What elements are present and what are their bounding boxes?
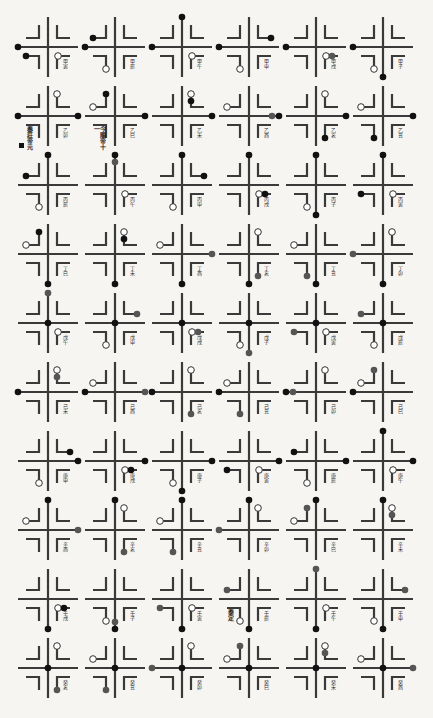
hexagram-cell: 辛卯 bbox=[216, 496, 282, 564]
bracket-nw bbox=[93, 301, 106, 314]
open-dot-icon bbox=[291, 518, 298, 525]
open-dot-icon bbox=[36, 204, 43, 211]
bracket-nw bbox=[361, 508, 374, 521]
cycle-label: 辛巳 bbox=[330, 542, 335, 552]
filled-dot-icon bbox=[82, 389, 89, 396]
filled-dot-icon bbox=[291, 449, 298, 456]
cycle-label: 癸丑 bbox=[129, 680, 134, 690]
bracket-nw bbox=[294, 577, 307, 590]
filled-dot-icon bbox=[188, 98, 195, 105]
filled-dot-icon bbox=[75, 113, 82, 120]
filled-dot-icon bbox=[112, 320, 119, 327]
gray-dot-icon bbox=[112, 159, 119, 166]
bracket-ne bbox=[124, 646, 137, 659]
gray-dot-icon bbox=[54, 687, 61, 694]
filled-dot-icon bbox=[121, 236, 128, 243]
cycle-label: 戊申 bbox=[129, 335, 134, 345]
annotation-note: 泰定 bbox=[227, 609, 233, 621]
open-dot-icon bbox=[90, 656, 97, 663]
bracket-nw bbox=[26, 577, 39, 590]
open-dot-icon bbox=[256, 467, 263, 474]
filled-dot-icon bbox=[380, 665, 387, 672]
hexagram-cell: 甲申 bbox=[216, 13, 282, 81]
gray-dot-icon bbox=[170, 549, 177, 556]
hexagram-cell: 乙丑 bbox=[350, 82, 416, 150]
bracket-ne bbox=[191, 577, 204, 590]
bracket-sw bbox=[227, 677, 240, 690]
filled-dot-icon bbox=[179, 626, 186, 633]
filled-dot-icon bbox=[380, 497, 387, 504]
hexagram-cell: 辛未 bbox=[350, 496, 416, 564]
filled-dot-icon bbox=[112, 626, 119, 633]
filled-dot-icon bbox=[313, 152, 320, 159]
cycle-label: 戊午 bbox=[62, 335, 67, 345]
cycle-label: 丙子 bbox=[330, 197, 335, 207]
cycle-label: 庚子 bbox=[196, 473, 201, 483]
hexagram-cell: 乙酉 bbox=[216, 82, 282, 150]
bracket-nw bbox=[361, 439, 374, 452]
bracket-ne bbox=[57, 25, 70, 38]
bracket-sw bbox=[26, 332, 39, 345]
bracket-ne bbox=[191, 25, 204, 38]
bracket-ne bbox=[124, 370, 137, 383]
hexagram-cell: 癸巳 bbox=[216, 634, 282, 702]
open-dot-icon bbox=[224, 104, 231, 111]
filled-dot-icon bbox=[313, 665, 320, 672]
gray-dot-icon bbox=[216, 527, 223, 534]
filled-dot-icon bbox=[45, 665, 52, 672]
open-dot-icon bbox=[322, 643, 329, 650]
bracket-sw bbox=[93, 194, 106, 207]
filled-dot-icon bbox=[15, 389, 22, 396]
hexagram-cell: 戊戌 bbox=[149, 289, 215, 357]
gray-dot-icon bbox=[149, 665, 156, 672]
hexagram-cell: 壬戌 bbox=[15, 565, 81, 633]
bracket-ne bbox=[325, 25, 338, 38]
hexagram-cell: 庚申 bbox=[15, 427, 81, 495]
cycle-label: 乙亥 bbox=[330, 128, 335, 138]
open-dot-icon bbox=[256, 191, 263, 198]
filled-dot-icon bbox=[246, 152, 253, 159]
open-dot-icon bbox=[55, 329, 62, 336]
gray-dot-icon bbox=[313, 566, 320, 573]
open-dot-icon bbox=[23, 518, 30, 525]
gray-dot-icon bbox=[410, 665, 417, 672]
bracket-nw bbox=[227, 301, 240, 314]
cycle-label: 癸未 bbox=[330, 680, 335, 690]
filled-dot-icon bbox=[112, 497, 119, 504]
cycle-label: 壬寅 bbox=[196, 611, 201, 621]
open-dot-icon bbox=[323, 329, 330, 336]
bracket-nw bbox=[160, 646, 173, 659]
bracket-nw bbox=[160, 25, 173, 38]
bracket-ne bbox=[325, 439, 338, 452]
open-dot-icon bbox=[36, 480, 43, 487]
open-dot-icon bbox=[224, 656, 231, 663]
filled-dot-icon bbox=[350, 44, 357, 51]
cycle-label: 丁丑 bbox=[330, 266, 335, 276]
open-dot-icon bbox=[390, 467, 397, 474]
filled-dot-icon bbox=[179, 488, 186, 495]
filled-dot-icon bbox=[380, 320, 387, 327]
bracket-nw bbox=[93, 439, 106, 452]
filled-dot-icon bbox=[268, 35, 275, 42]
bracket-nw bbox=[26, 94, 39, 107]
bracket-ne bbox=[258, 646, 271, 659]
open-dot-icon bbox=[90, 380, 97, 387]
bracket-sw bbox=[227, 539, 240, 552]
gray-dot-icon bbox=[304, 505, 311, 512]
bracket-nw bbox=[26, 301, 39, 314]
bracket-nw bbox=[93, 577, 106, 590]
filled-dot-icon bbox=[36, 229, 43, 236]
bracket-nw bbox=[26, 25, 39, 38]
filled-dot-icon bbox=[380, 428, 387, 435]
hexagram-cell: 己巳 bbox=[350, 358, 416, 426]
open-dot-icon bbox=[358, 104, 365, 111]
filled-dot-icon bbox=[246, 320, 253, 327]
bracket-ne bbox=[325, 232, 338, 245]
gray-dot-icon bbox=[304, 273, 311, 280]
bracket-nw bbox=[160, 163, 173, 176]
open-dot-icon bbox=[188, 643, 195, 650]
filled-dot-icon bbox=[283, 44, 290, 51]
bracket-sw bbox=[160, 677, 173, 690]
bracket-sw bbox=[160, 263, 173, 276]
cycle-label: 戊戌 bbox=[196, 335, 201, 345]
